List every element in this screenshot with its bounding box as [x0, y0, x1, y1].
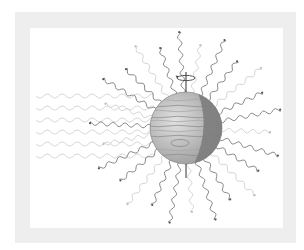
emitted-wave [136, 46, 168, 100]
wave-endpoint [236, 60, 238, 62]
emitted-wave [200, 41, 227, 97]
wave-endpoint [199, 44, 201, 46]
wave-endpoint [277, 155, 279, 157]
wave-endpoint [260, 67, 262, 69]
incoming-wave [36, 130, 154, 134]
incoming-radiation-waves [36, 94, 154, 158]
wave-endpoint [119, 179, 121, 181]
emitted-wave [127, 68, 162, 104]
incoming-wave [36, 106, 154, 110]
emitted-wave [178, 32, 186, 94]
emitted-wave [103, 133, 152, 145]
emitted-wave [217, 93, 263, 115]
wave-endpoint [257, 170, 259, 172]
wave-endpoint [98, 167, 100, 169]
emitted-wave [196, 160, 217, 220]
wave-endpoint [169, 222, 171, 224]
wave-endpoint [261, 92, 263, 94]
emitted-wave [215, 145, 257, 172]
wave-endpoint [254, 194, 256, 196]
wave-endpoint [134, 45, 136, 47]
emitted-wave [191, 46, 202, 95]
wave-endpoint [89, 122, 91, 124]
wave-endpoint [125, 68, 127, 70]
wave-endpoint [229, 198, 231, 200]
wave-endpoint [127, 203, 129, 205]
emitted-wave [220, 128, 270, 134]
emitted-wave [104, 78, 157, 111]
emitted-wave [213, 69, 263, 107]
wave-endpoint [178, 31, 180, 33]
emitted-wave [90, 122, 152, 128]
incoming-wave [36, 94, 154, 98]
emitted-wave [126, 155, 165, 203]
emitted-wave [168, 162, 181, 223]
wave-endpoint [151, 204, 153, 206]
incoming-wave [36, 142, 154, 146]
emitted-wave [119, 149, 159, 179]
emitted-wave [204, 157, 230, 200]
planet-radiation-diagram [0, 0, 304, 250]
emitted-wave [151, 159, 173, 204]
incoming-wave [36, 154, 154, 158]
emitted-wave [187, 162, 194, 212]
wave-endpoint [104, 103, 106, 105]
wave-endpoint [159, 47, 161, 49]
emitted-wave [219, 109, 280, 123]
incoming-wave [36, 118, 154, 122]
wave-endpoint [214, 218, 216, 220]
wave-endpoint [102, 143, 104, 145]
wave-endpoint [223, 39, 225, 41]
wave-endpoint [269, 131, 271, 133]
wave-endpoint [102, 78, 104, 80]
wave-endpoint [191, 211, 193, 213]
wave-endpoint [279, 109, 281, 111]
